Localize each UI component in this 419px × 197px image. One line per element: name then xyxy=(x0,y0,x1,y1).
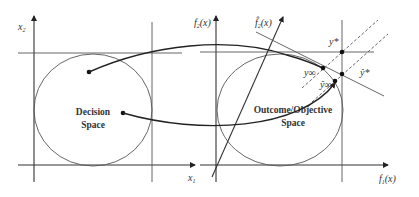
decision-space-panel: Decision Space x2 x1 xyxy=(17,16,195,184)
pareto-hat-point xyxy=(333,79,338,84)
ideal-point xyxy=(340,50,345,55)
ideal-hat-point xyxy=(340,72,345,77)
transformed-f2-axis-label: f̂2(x) xyxy=(255,16,273,29)
ideal-hat-point-label: ŷ* xyxy=(359,67,369,78)
pareto-point-label: y∞ xyxy=(303,67,316,78)
f2-axis-label: f2(x) xyxy=(194,17,212,29)
objective-space-label-line2: Space xyxy=(281,118,305,128)
x1-axis-label: x1 xyxy=(187,172,195,184)
f1-axis-label: f1(x) xyxy=(379,173,397,185)
ideal-point-label: y* xyxy=(328,36,338,47)
objective-space-label-line1: Outcome/Objective xyxy=(254,105,333,115)
pareto-point xyxy=(321,66,326,71)
transformed-f2-axis xyxy=(212,17,283,177)
objective-space-panel: y* ŷ* y∞ ŷ∞ Outcome/Objective Space f2(x… xyxy=(194,16,397,185)
x2-axis-label: x2 xyxy=(17,21,25,33)
decision-space-label-line1: Decision xyxy=(76,107,111,117)
decision-space-label-line2: Space xyxy=(81,120,105,130)
decision-objective-space-diagram: Decision Space x2 x1 y* ŷ* y∞ ŷ∞ Outcome… xyxy=(0,0,419,197)
